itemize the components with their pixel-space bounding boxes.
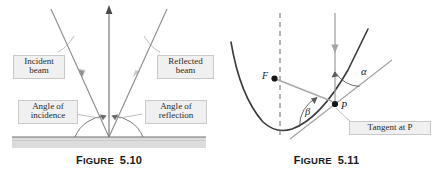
figure-5-10-caption-number: 5.10 xyxy=(120,154,142,166)
label-angle-alpha: α xyxy=(361,66,367,77)
label-point-P: P xyxy=(341,100,347,111)
normal-line xyxy=(106,5,113,137)
figure-5-11-panel: F P α β Tangent at P FIGURE 5.11 xyxy=(218,0,435,172)
callout-reflected-beam-line2: beam xyxy=(161,66,210,75)
figure-5-10-caption-word-rest: IGURE xyxy=(83,155,114,166)
callout-incident-beam: Incident beam xyxy=(13,55,65,79)
angle-of-reflection-arc xyxy=(112,115,144,137)
figure-5-10-panel: Incident beam Reflected beam Angle of in… xyxy=(0,0,218,172)
callout-angle-of-incidence-line2: incidence xyxy=(22,111,74,120)
label-angle-beta: β xyxy=(305,106,310,117)
figure-5-11-caption-number: 5.11 xyxy=(338,154,360,166)
callout-angle-of-reflection-line2: reflection xyxy=(149,111,203,120)
focal-ray xyxy=(275,79,333,102)
point-p xyxy=(332,101,338,107)
figure-5-11-caption-word: FIGURE xyxy=(294,155,335,166)
label-focus-F: F xyxy=(262,70,268,81)
parabola-curve xyxy=(231,29,368,130)
figure-5-10-caption-word: FIGURE xyxy=(76,155,117,166)
angle-of-incidence-arc xyxy=(75,115,107,137)
figure-pair-page: Incident beam Reflected beam Angle of in… xyxy=(0,0,435,172)
callout-angle-of-incidence: Angle of incidence xyxy=(18,100,78,124)
callout-angle-of-reflection: Angle of reflection xyxy=(145,100,207,124)
incoming-ray xyxy=(331,13,338,104)
callout-reflected-beam: Reflected beam xyxy=(157,55,214,79)
focus-point xyxy=(271,75,277,81)
callout-incident-beam-line2: beam xyxy=(17,66,61,75)
callout-tangent-at-p: Tangent at P xyxy=(349,121,431,135)
callout-tangent-at-p-text: Tangent at P xyxy=(368,122,413,132)
figure-5-11-caption: FIGURE 5.11 xyxy=(218,150,435,168)
surface-band xyxy=(12,137,206,148)
figure-5-10-caption: FIGURE 5.10 xyxy=(0,150,218,168)
figure-5-11-caption-word-rest: IGURE xyxy=(301,155,332,166)
